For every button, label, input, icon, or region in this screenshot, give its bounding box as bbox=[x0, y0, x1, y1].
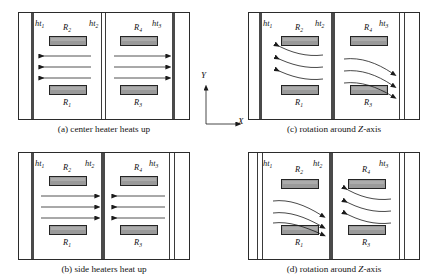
panel-a: ht1 ht2 ht3 R2 R1 R4 R3 bbox=[18, 12, 190, 136]
coordinate-axes: Y X bbox=[196, 72, 246, 130]
axis-label-x: X bbox=[238, 116, 244, 126]
caption-c: (c) rotation around Z-axis bbox=[248, 124, 420, 134]
flow-arrows-d bbox=[249, 153, 421, 261]
caption-a: (a) center heater heats up bbox=[18, 124, 190, 134]
caption-b: (b) side heaters heat up bbox=[18, 264, 190, 274]
caption-c-pre: (c) rotation around bbox=[287, 124, 358, 134]
caption-c-post: -axis bbox=[363, 124, 381, 134]
flow-arrows-c bbox=[249, 13, 421, 121]
caption-d-post: -axis bbox=[363, 264, 381, 274]
panel-d: ht1 ht2 ht3 R2 R1 R4 R3 bbox=[248, 152, 420, 276]
panel-d-frame: ht1 ht2 ht3 R2 R1 R4 R3 bbox=[248, 152, 420, 260]
caption-d: (d) rotation around Z-axis bbox=[248, 264, 420, 274]
flow-arrows-a bbox=[19, 13, 191, 121]
panel-b: ht1 ht2 ht3 R2 R1 R4 R3 bbox=[18, 152, 190, 276]
caption-d-pre: (d) rotation around bbox=[287, 264, 359, 274]
panel-b-frame: ht1 ht2 ht3 R2 R1 R4 R3 bbox=[18, 152, 190, 260]
panel-c: ht1 ht2 ht3 R2 R1 R4 R3 bbox=[248, 12, 420, 136]
panel-c-frame: ht1 ht2 ht3 R2 R1 R4 R3 bbox=[248, 12, 420, 120]
panel-a-frame: ht1 ht2 ht3 R2 R1 R4 R3 bbox=[18, 12, 190, 120]
axis-label-y: Y bbox=[201, 70, 206, 80]
flow-arrows-b bbox=[19, 153, 191, 261]
figure-root: ht1 ht2 ht3 R2 R1 R4 R3 bbox=[0, 0, 433, 280]
